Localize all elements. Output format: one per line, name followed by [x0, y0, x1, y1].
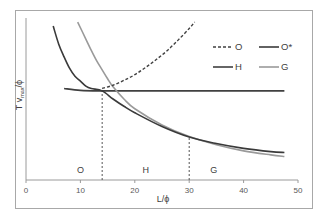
x-ticks: 01020304050	[24, 180, 303, 195]
region-label: O	[77, 165, 84, 175]
legend-label: H	[235, 61, 242, 72]
x-tick-label: 50	[294, 186, 303, 195]
region-label: G	[210, 165, 217, 175]
x-axis-label: L/ϕ	[157, 194, 170, 204]
legend-label: O*	[281, 41, 292, 52]
x-tick-label: 30	[185, 186, 194, 195]
legend-item-o-star: O*	[259, 41, 292, 52]
y-axis-label-tail: /ϕ	[14, 80, 24, 88]
y-axis-label-main: T v	[14, 97, 24, 110]
legend: OO*HG	[213, 41, 292, 72]
x-tick-label: 20	[130, 186, 139, 195]
chart: 01020304050 OHG L/ϕ T vmax/ϕ OO*HG	[0, 0, 323, 220]
legend-label: O	[235, 41, 242, 52]
legend-item-o: O	[213, 41, 242, 52]
legend-label: G	[281, 61, 288, 72]
y-axis-label-sub: max	[19, 87, 25, 98]
x-tick-label: 0	[24, 186, 29, 195]
legend-item-g: G	[259, 61, 288, 72]
x-tick-label: 40	[239, 186, 248, 195]
series-line-g	[78, 22, 285, 156]
legend-item-h: H	[213, 61, 242, 72]
x-tick-label: 10	[76, 186, 85, 195]
axes	[26, 18, 298, 180]
region-label: H	[142, 165, 149, 175]
series-group	[53, 22, 284, 156]
series-line-o	[102, 22, 194, 88]
region-labels: OHG	[77, 165, 217, 175]
y-axis-label: T vmax/ϕ	[14, 80, 25, 110]
